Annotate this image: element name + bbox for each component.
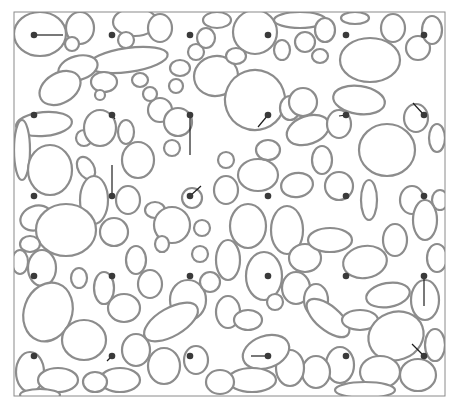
grain xyxy=(429,124,445,152)
grain xyxy=(234,310,262,330)
grain xyxy=(230,204,266,248)
grain xyxy=(267,294,283,310)
grain xyxy=(216,240,240,280)
grid-point xyxy=(109,273,116,280)
grid-point xyxy=(343,273,350,280)
grid-point xyxy=(343,112,350,119)
grain xyxy=(155,236,169,252)
grid-point xyxy=(343,32,350,39)
grain xyxy=(83,372,107,392)
grain xyxy=(194,220,210,236)
grain xyxy=(256,140,280,160)
grid-point xyxy=(187,353,194,360)
grain xyxy=(361,180,377,220)
grain xyxy=(132,73,148,87)
grain xyxy=(340,38,400,82)
grain xyxy=(359,124,415,176)
micrograph-figure xyxy=(0,0,457,408)
grain xyxy=(116,186,140,214)
grain xyxy=(203,12,231,28)
grain xyxy=(65,37,79,51)
grain xyxy=(341,12,369,24)
grain xyxy=(192,246,208,262)
grid-point xyxy=(421,32,428,39)
grain xyxy=(122,142,154,178)
grain xyxy=(108,294,140,322)
grain xyxy=(238,159,278,191)
grid-point xyxy=(265,273,272,280)
grain xyxy=(425,329,445,361)
grain xyxy=(28,145,72,195)
grain xyxy=(289,88,317,116)
grid-point xyxy=(109,193,116,200)
grid-point xyxy=(187,32,194,39)
grain xyxy=(312,146,332,174)
grain xyxy=(143,87,157,101)
grain xyxy=(315,18,335,42)
grain xyxy=(28,250,56,286)
grid-point xyxy=(31,273,38,280)
grain xyxy=(383,224,407,256)
grid-point xyxy=(109,112,116,119)
grain xyxy=(138,270,162,298)
grain xyxy=(122,334,150,366)
grid-point xyxy=(421,193,428,200)
grain xyxy=(36,204,96,256)
grain xyxy=(413,200,437,240)
grid-point xyxy=(421,112,428,119)
grid-point xyxy=(31,353,38,360)
grain xyxy=(170,60,190,76)
grain xyxy=(95,90,105,100)
grid-point xyxy=(421,353,428,360)
grain xyxy=(312,49,328,63)
grain xyxy=(228,368,276,392)
grain xyxy=(118,120,134,144)
grain xyxy=(100,218,128,246)
grid-point xyxy=(421,273,428,280)
grid-point xyxy=(265,353,272,360)
grain xyxy=(118,32,134,48)
grid-point xyxy=(187,193,194,200)
grid-point xyxy=(187,112,194,119)
grid-point xyxy=(343,193,350,200)
grain xyxy=(169,79,183,93)
grain xyxy=(200,272,220,292)
grid-point xyxy=(109,353,116,360)
grain xyxy=(14,12,66,56)
grid-point xyxy=(31,32,38,39)
grid-point xyxy=(109,32,116,39)
grain xyxy=(427,244,447,272)
grain xyxy=(126,246,146,274)
grain xyxy=(302,356,330,388)
grain xyxy=(214,176,238,204)
grid-point xyxy=(31,193,38,200)
grain xyxy=(226,48,246,64)
grain xyxy=(71,268,87,288)
grid-point xyxy=(265,32,272,39)
grain xyxy=(274,40,290,60)
grain xyxy=(148,14,172,42)
grid-point xyxy=(187,273,194,280)
grid-point xyxy=(265,193,272,200)
grid-point xyxy=(265,112,272,119)
grain-structure-plot xyxy=(0,0,457,408)
grain xyxy=(246,252,282,300)
grain xyxy=(308,228,352,252)
grain xyxy=(197,28,215,48)
grain xyxy=(295,32,315,52)
grid-point xyxy=(31,112,38,119)
grain xyxy=(400,359,436,391)
grain xyxy=(62,320,106,360)
grain xyxy=(148,348,180,384)
grain xyxy=(164,140,180,156)
grain xyxy=(218,152,234,168)
grain xyxy=(206,370,234,394)
grain xyxy=(422,16,442,44)
grain xyxy=(164,108,192,136)
grain xyxy=(411,280,439,320)
grain xyxy=(381,14,405,42)
grain xyxy=(91,72,117,92)
grain xyxy=(184,346,208,374)
grid-point xyxy=(343,353,350,360)
